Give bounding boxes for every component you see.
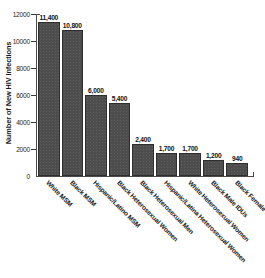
bar-value-label: 1,700 [182,145,198,152]
bar-value-label: 1,200 [206,152,222,159]
bar-slot: 5,400 [109,14,131,176]
bar-slot: 1,200 [203,14,225,176]
y-axis-tick-mark [31,149,36,150]
bar-value-label: 5,400 [112,95,128,102]
y-axis-tick-label: 12000 [12,11,30,18]
y-axis-tick-label: 2000 [12,146,30,153]
bar [203,160,225,176]
bar [109,103,131,176]
x-axis-category-label: Hispanic/Latino MSM [92,179,142,229]
y-axis-line [36,14,37,177]
bar-value-label: 10,800 [63,22,82,29]
bar [179,153,201,176]
y-axis-tick-mark [31,122,36,123]
bar-slot: 11,400 [38,14,60,176]
y-axis-tick-label: 8000 [12,65,30,72]
x-axis-line [36,176,254,177]
bar-slot: 10,800 [62,14,84,176]
y-axis-tick-label: 4000 [12,119,30,126]
bar [226,163,248,176]
x-axis-end-cap [253,172,254,177]
y-axis-tick-mark [31,14,36,15]
bar-slot: 1,700 [179,14,201,176]
plot-area: 11,40010,8006,0005,4002,4001,7001,7001,2… [38,14,250,176]
bar-slot: 6,000 [85,14,107,176]
bar [62,30,84,176]
bar-slot: 940 [226,14,248,176]
bar [132,144,154,176]
y-axis-tick-label: 10000 [12,38,30,45]
y-axis-tick-labels: 020004000600080001000012000 [12,0,30,278]
bar-value-label: 6,000 [88,87,104,94]
bar-slot: 1,700 [156,14,178,176]
bar-slot: 2,400 [132,14,154,176]
y-axis-tick-label: 6000 [12,92,30,99]
y-axis-tick-label: 0 [12,173,30,180]
y-axis-tick-mark [31,41,36,42]
bar-value-label: 2,400 [135,136,151,143]
bar [156,153,178,176]
bar [85,95,107,176]
bar [38,22,60,176]
bar-value-label: 940 [232,155,242,162]
bar-value-label: 11,400 [39,14,58,21]
y-axis-tick-mark [31,68,36,69]
hiv-infections-bar-chart: Number of New HIV Infections 02000400060… [0,0,265,278]
x-axis-category-labels: White MSMBlack MSMHispanic/Latino MSMBla… [38,179,250,278]
y-axis-tick-mark [31,95,36,96]
bar-value-label: 1,700 [159,145,175,152]
